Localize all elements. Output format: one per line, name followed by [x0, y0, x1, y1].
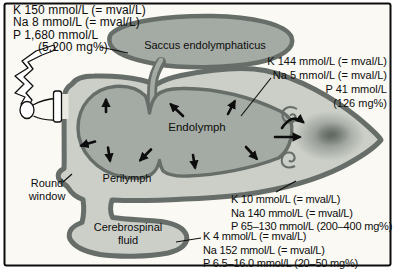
- conc-line: Na 152 mmol/L (= mval/L): [203, 244, 358, 258]
- conc-line: (126 mg%): [267, 97, 387, 111]
- conc-line: K 144 mmol/L (= mval/L): [267, 55, 387, 69]
- conc-line: K 10 mmol/L (= mval/L): [231, 193, 392, 207]
- stapes-footplate: [54, 91, 62, 122]
- conc-line: Na 140 mmol/L (= mval/L): [231, 207, 392, 221]
- conc-endolymph-sac: K 150 mmol/L (= mval/L) Na 8 mmol/L (= m…: [13, 4, 146, 54]
- conc-line: K 4 mmol/L (= mval/L): [203, 230, 358, 244]
- stippled-secretion-zone: [293, 111, 365, 161]
- stapes-head: [20, 102, 34, 119]
- label-saccus-endolymphaticus: Saccus endolymphaticus: [135, 39, 275, 52]
- label-line: window: [17, 190, 77, 203]
- conc-csf: K 4 mmol/L (= mval/L) Na 152 mmol/L (= m…: [203, 230, 358, 271]
- label-cerebrospinal-fluid: Cerebrospinal fluid: [78, 221, 178, 246]
- label-line: fluid: [78, 234, 178, 247]
- conc-endolymph: K 144 mmol/L (= mval/L) Na 5 mmol/L (= m…: [267, 55, 387, 111]
- conc-perilymph: K 10 mmol/L (= mval/L) Na 140 mmol/L (= …: [231, 193, 392, 234]
- conc-line: (5,200 mg%): [13, 41, 146, 53]
- label-line: Round: [17, 177, 77, 190]
- inner-ear-fluids-figure: K 150 mmol/L (= mval/L) Na 8 mmol/L (= m…: [0, 0, 395, 278]
- label-perilymph: Perilymph: [92, 172, 162, 185]
- conc-line: Na 8 mmol/L (= mval/L): [13, 16, 146, 28]
- label-endolymph: Endolymph: [157, 121, 237, 134]
- conc-line: Na 5 mmol/L (= mval/L): [267, 69, 387, 83]
- conc-line: P 6.5–16.0 mmol/L (20–50 mg%): [203, 257, 358, 271]
- label-round-window: Round window: [17, 177, 77, 203]
- label-line: Cerebrospinal: [78, 221, 178, 234]
- conc-line: P 41 mmol/L: [267, 83, 387, 97]
